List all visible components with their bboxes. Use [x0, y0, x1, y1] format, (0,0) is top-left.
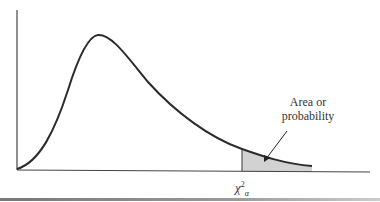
area-label-line1: Area or [268, 95, 348, 109]
chi-subscript: α [245, 189, 249, 198]
chi-superscript: 2 [241, 180, 245, 189]
annotation-arrow [266, 131, 287, 159]
bottom-divider [0, 198, 380, 201]
area-label-line2: probability [268, 109, 348, 123]
chi-square-diagram: Area or probability χ2α [0, 0, 380, 202]
x-axis [17, 170, 370, 172]
area-probability-label: Area or probability [268, 95, 348, 123]
